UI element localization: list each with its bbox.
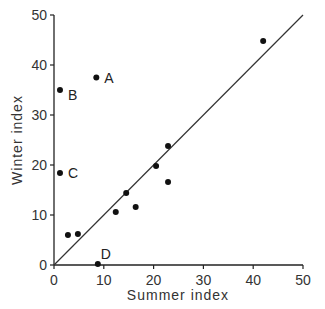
data-point <box>165 143 171 149</box>
x-axis-title: Summer index <box>127 287 229 303</box>
point-label-b: B <box>68 87 77 103</box>
data-points: ABCD <box>57 38 266 267</box>
data-point <box>93 75 99 81</box>
x-tick-label: 40 <box>245 272 261 288</box>
data-point <box>75 231 81 237</box>
x-tick-label: 10 <box>96 272 112 288</box>
data-point <box>113 209 119 215</box>
y-tick-label: 10 <box>31 207 47 223</box>
x-tick-label: 30 <box>196 272 212 288</box>
point-label-c: C <box>68 165 78 181</box>
data-point <box>133 204 139 210</box>
point-label-d: D <box>101 246 111 262</box>
scatter-chart: 0102030405001020304050 ABCD Summer index… <box>0 0 325 309</box>
y-tick-label: 40 <box>31 57 47 73</box>
x-tick-label: 50 <box>295 272 311 288</box>
data-point <box>260 38 266 44</box>
x-tick-label: 0 <box>50 272 58 288</box>
y-tick-label: 30 <box>31 107 47 123</box>
data-point <box>65 232 71 238</box>
point-label-a: A <box>104 70 114 86</box>
x-tick-label: 20 <box>146 272 162 288</box>
y-tick-label: 20 <box>31 157 47 173</box>
identity-line <box>54 15 303 265</box>
data-point <box>57 87 63 93</box>
data-point <box>123 190 129 196</box>
y-axis-title: Winter index <box>9 95 25 185</box>
data-point <box>153 163 159 169</box>
y-tick-label: 50 <box>31 7 47 23</box>
data-point <box>57 170 63 176</box>
data-point <box>165 179 171 185</box>
y-tick-label: 0 <box>39 257 47 273</box>
